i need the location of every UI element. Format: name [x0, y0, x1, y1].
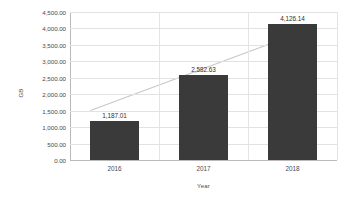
bar[interactable] [268, 24, 316, 160]
x-axis-tick-label: 2016 [107, 165, 121, 172]
x-axis-tick-label: 2017 [196, 165, 210, 172]
bar-data-label: 4,126.14 [280, 15, 304, 22]
bar-chart: GB 0.00500.001,000.001,500.002,000.002,5… [0, 0, 354, 201]
vertical-gridline [337, 12, 338, 160]
bar-data-label: 2,582.63 [191, 66, 215, 73]
bar[interactable] [179, 75, 227, 160]
x-axis-title: Year [70, 183, 337, 189]
y-axis-tick-label: 2,000.00 [16, 91, 66, 98]
bar-data-label: 1,187.01 [102, 112, 126, 119]
x-axis-tick-label: 2018 [285, 165, 299, 172]
plot-area: 1,187.012,582.634,126.14 [70, 12, 337, 160]
y-axis-tick-label: 1,000.00 [16, 124, 66, 131]
gridline [70, 12, 337, 13]
vertical-gridline [159, 12, 160, 160]
y-axis-tick-label: 1,500.00 [16, 107, 66, 114]
y-axis-tick-labels: 0.00500.001,000.001,500.002,000.002,500.… [16, 12, 66, 160]
y-axis-tick-label: 3,500.00 [16, 41, 66, 48]
y-axis-tick-label: 4,500.00 [16, 9, 66, 16]
y-axis-tick-label: 0.00 [16, 157, 66, 164]
y-axis-tick-label: 2,500.00 [16, 74, 66, 81]
y-axis-tick-label: 4,000.00 [16, 25, 66, 32]
y-axis-tick-label: 3,000.00 [16, 58, 66, 65]
y-axis-tick-label: 500.00 [16, 140, 66, 147]
vertical-gridline [248, 12, 249, 160]
bar[interactable] [90, 121, 138, 160]
gridline [70, 160, 337, 161]
x-axis-tick-labels: 201620172018 [70, 165, 337, 177]
